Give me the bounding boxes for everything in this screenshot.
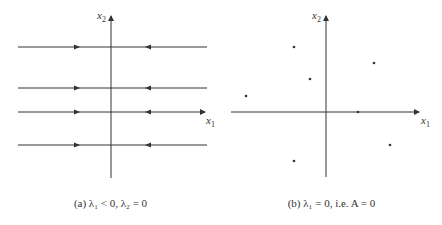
phase-portrait-a [0,0,221,190]
x2-axis-label: x2 [312,9,321,24]
x1-axis-label: x1 [206,114,215,129]
caption-b: (b) λ₁ = 0, i.e. A = 0 [221,197,442,209]
phase-portrait-b [221,0,442,190]
panel-a: x2 x1 [0,0,221,190]
x2-axis-label: x2 [97,9,106,24]
x1-axis-label: x1 [421,114,430,129]
trajectory-lines [18,47,207,145]
flow-arrows [74,45,151,148]
panel-b: x2 x1 [221,0,442,190]
caption-a: (a) λ₁ < 0, λ₂ = 0 [0,197,221,209]
fixed-points [245,46,392,163]
